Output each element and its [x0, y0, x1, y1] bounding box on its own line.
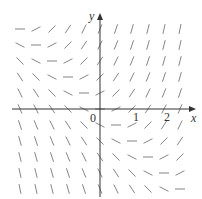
x-tick-label-1: 1	[133, 111, 139, 123]
slope-segment	[113, 73, 119, 81]
slope-segment	[176, 171, 185, 175]
slope-segment	[18, 120, 21, 129]
slope-field-diagram	[0, 0, 202, 199]
slope-segment	[163, 40, 165, 50]
y-axis-label: y	[89, 10, 94, 22]
slope-segment	[162, 72, 165, 81]
slope-segment	[82, 168, 86, 177]
slope-segment	[146, 72, 150, 81]
slope-segment	[112, 89, 119, 96]
slope-segment	[130, 73, 134, 82]
slope-segment	[112, 153, 119, 160]
slope-segment	[18, 89, 22, 98]
slope-segment	[48, 25, 55, 32]
slope-segment	[19, 152, 21, 162]
slope-segment	[50, 152, 53, 161]
slope-segment	[17, 73, 23, 81]
slope-segment	[34, 120, 38, 129]
slope-segment	[160, 137, 167, 144]
slope-segment	[50, 136, 54, 145]
slope-segment	[66, 168, 69, 177]
slope-segment	[35, 168, 37, 178]
slope-segment	[82, 153, 86, 162]
x-tick-label-2: 2	[164, 111, 170, 123]
slope-segment	[162, 88, 166, 97]
slope-segment	[19, 168, 21, 178]
slope-segment	[144, 171, 153, 175]
slope-segment	[144, 185, 151, 192]
slope-segment	[178, 88, 181, 97]
slope-segment	[48, 89, 55, 96]
slope-segment	[128, 169, 135, 176]
slope-segment	[32, 27, 41, 31]
slope-segment	[114, 40, 118, 49]
slope-segment	[114, 24, 117, 33]
slope-segment	[48, 75, 57, 79]
slope-segment	[80, 57, 87, 64]
slope-segment	[178, 121, 182, 130]
slope-segment	[147, 40, 150, 50]
slope-segment	[163, 24, 165, 34]
slope-segment	[80, 121, 87, 128]
slope-segment	[179, 72, 182, 82]
slope-segment	[160, 155, 169, 159]
slope-segment	[50, 121, 54, 130]
slope-segment	[131, 24, 134, 34]
slope-segment	[64, 91, 73, 95]
slope-segment	[66, 152, 70, 161]
slope-segment	[130, 40, 133, 49]
slope-segment	[144, 139, 153, 143]
slope-segment	[65, 25, 71, 33]
slope-segment	[179, 56, 181, 66]
slope-segment	[65, 121, 71, 129]
slope-segment	[34, 136, 37, 145]
slope-segment	[176, 153, 183, 160]
slope-segment	[32, 73, 39, 80]
slope-segment	[80, 75, 89, 79]
slope-segment	[67, 184, 70, 194]
slope-segment	[114, 185, 118, 194]
y-axis-arrow-icon	[97, 13, 103, 20]
slope-segment	[82, 184, 85, 193]
origin-label: 0	[90, 112, 96, 124]
slope-segment	[81, 137, 87, 145]
slope-segment	[179, 24, 181, 34]
slope-segment	[177, 137, 183, 145]
slope-segment	[163, 56, 166, 66]
slope-segment	[32, 59, 41, 63]
slope-segment	[48, 43, 57, 47]
slope-segment	[51, 184, 53, 194]
slope-segment	[113, 169, 119, 177]
slope-segment	[81, 41, 87, 49]
slope-segment	[114, 57, 118, 66]
slope-segment	[16, 43, 25, 47]
x-axis-label: x	[191, 112, 196, 124]
slope-segment	[66, 137, 70, 146]
slope-segment	[129, 185, 135, 193]
slope-segment	[130, 56, 134, 65]
slope-segment	[146, 56, 149, 65]
slope-segment	[16, 57, 23, 64]
slope-segment	[64, 41, 71, 48]
slope-segment	[112, 139, 121, 143]
slope-segment	[51, 168, 54, 178]
slope-segment	[35, 152, 38, 162]
slope-segment	[147, 24, 149, 34]
slope-segment	[33, 89, 39, 97]
slope-segment	[82, 25, 86, 34]
slope-segment	[35, 184, 37, 194]
slope-segment	[129, 89, 135, 97]
slope-segment	[179, 40, 181, 50]
slope-segment	[128, 155, 137, 159]
slope-segment	[146, 89, 150, 98]
slope-segment	[64, 59, 73, 63]
slope-segment	[144, 121, 151, 128]
slope-segment	[160, 187, 169, 191]
slope-segment	[19, 136, 22, 146]
slope-segment	[19, 184, 21, 194]
